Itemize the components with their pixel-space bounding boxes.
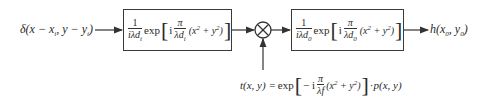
input-delta-label: δ(x − xi, y − yi) — [20, 22, 93, 38]
propagation-block-output: 1 iλd0 exp [ i π λd0 (x2 + y2) ] — [291, 9, 404, 51]
fraction-amplitude: 1 iλdi — [128, 18, 142, 43]
fraction-amplitude: 1 iλd0 — [296, 18, 312, 43]
fraction-phase: π λdi — [174, 18, 185, 43]
transmission-equation: t(x, y) = exp [ − i π λf (x2 + y2) ] · p… — [240, 72, 402, 98]
output-h-label: h(x0, y0) — [430, 22, 468, 38]
fraction-lens-phase: π λf — [317, 74, 324, 96]
fraction-phase: π λd0 — [344, 18, 357, 43]
propagation-block-input: 1 iλdi exp [ i π λdi (x2 + y2) ] — [123, 9, 232, 51]
